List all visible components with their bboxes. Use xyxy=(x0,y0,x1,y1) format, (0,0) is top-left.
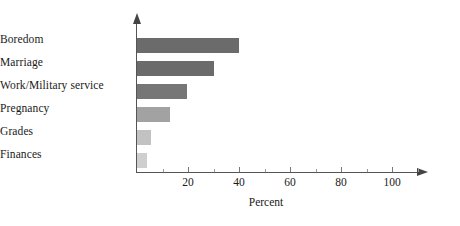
category-label-marriage: Marriage xyxy=(0,56,130,68)
x-axis-minor-tick xyxy=(265,169,266,173)
x-axis-tick-label: 100 xyxy=(383,176,400,188)
x-axis-tick-label: 20 xyxy=(182,176,194,188)
x-axis-minor-tick xyxy=(367,169,368,173)
bar-grades xyxy=(137,130,151,145)
category-label-finances: Finances xyxy=(0,148,130,160)
plot-area: Boredom Marriage Work/Military service P… xyxy=(0,0,460,226)
category-label-work-military-service: Work/Military service xyxy=(0,79,130,91)
x-axis-tick xyxy=(188,167,189,173)
x-axis-minor-tick xyxy=(418,169,419,173)
x-axis-minor-tick xyxy=(316,169,317,173)
x-axis-tick xyxy=(392,167,393,173)
x-axis-tick-label: 60 xyxy=(284,176,296,188)
x-axis-minor-tick xyxy=(214,169,215,173)
bar-boredom xyxy=(137,38,239,53)
x-axis-arrow-icon xyxy=(417,168,428,176)
category-label-pregnancy: Pregnancy xyxy=(0,102,130,114)
bar-finances xyxy=(137,153,147,168)
x-axis-tick xyxy=(239,167,240,173)
x-axis-tick xyxy=(290,167,291,173)
x-axis-minor-tick xyxy=(163,169,164,173)
x-axis-tick-label: 80 xyxy=(335,176,347,188)
x-axis-line xyxy=(136,172,418,173)
y-axis-line xyxy=(136,22,137,172)
bar-chart: Boredom Marriage Work/Military service P… xyxy=(0,0,460,226)
category-label-boredom: Boredom xyxy=(0,33,130,45)
bar-marriage xyxy=(137,61,214,76)
category-label-grades: Grades xyxy=(0,125,130,137)
y-axis-arrow-icon xyxy=(133,13,141,24)
category-axis-labels: Boredom Marriage Work/Military service P… xyxy=(0,33,130,172)
x-axis-title: Percent xyxy=(249,196,283,208)
x-axis-tick-label: 40 xyxy=(233,176,245,188)
x-axis-tick xyxy=(341,167,342,173)
bar-work-military-service xyxy=(137,84,187,99)
bar-pregnancy xyxy=(137,107,170,122)
